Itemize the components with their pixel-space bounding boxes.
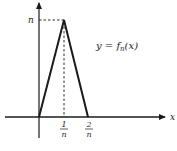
svg-text:n: n [61, 130, 66, 139]
function-graph [39, 20, 88, 117]
y-tick-label: n [28, 15, 34, 25]
svg-text:n: n [86, 130, 91, 139]
svg-text:1: 1 [61, 120, 66, 129]
x-tick-two-over-n: 2 n [85, 120, 93, 139]
x-tick-one-over-n: 1 n [60, 120, 68, 139]
triangle-function-diagram: n x y = fn(x) 1 n 2 n [0, 0, 177, 151]
x-axis-label: x [170, 112, 175, 122]
function-label: y = fn(x) [95, 40, 138, 53]
svg-text:2: 2 [85, 120, 91, 129]
